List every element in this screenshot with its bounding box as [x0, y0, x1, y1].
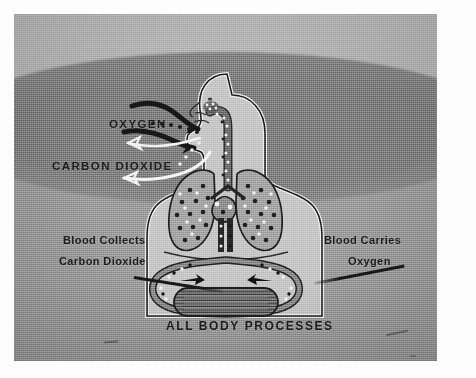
screenshot-root: OXYGEN CARBON DIOXIDE Blood Collects Car…	[0, 0, 476, 378]
photo-vignette	[14, 14, 437, 361]
photo-plate: OXYGEN CARBON DIOXIDE Blood Collects Car…	[14, 14, 437, 361]
